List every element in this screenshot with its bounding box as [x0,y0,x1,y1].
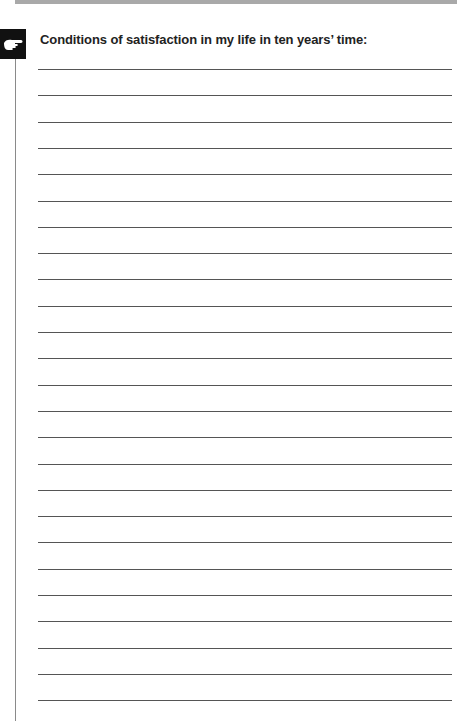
writing-line [38,621,452,622]
writing-line [38,174,452,175]
writing-line [38,674,452,675]
writing-line [38,385,452,386]
writing-line [38,227,452,228]
writing-line [38,490,452,491]
writing-line [38,148,452,149]
writing-line [38,648,452,649]
writing-line [38,332,452,333]
writing-line [38,516,452,517]
writing-line [38,95,452,96]
writing-line [38,306,452,307]
writing-line [38,411,452,412]
writing-line [38,700,452,701]
writing-line [38,569,452,570]
writing-line [38,358,452,359]
writing-lines [38,0,452,721]
pointing-hand-icon [0,29,26,59]
writing-line [38,279,452,280]
writing-line [38,464,452,465]
writing-line [38,437,452,438]
writing-line [38,542,452,543]
margin-rule [15,59,16,721]
writing-line [38,201,452,202]
writing-line [38,595,452,596]
writing-line [38,253,452,254]
writing-line [38,69,452,70]
writing-line [38,122,452,123]
